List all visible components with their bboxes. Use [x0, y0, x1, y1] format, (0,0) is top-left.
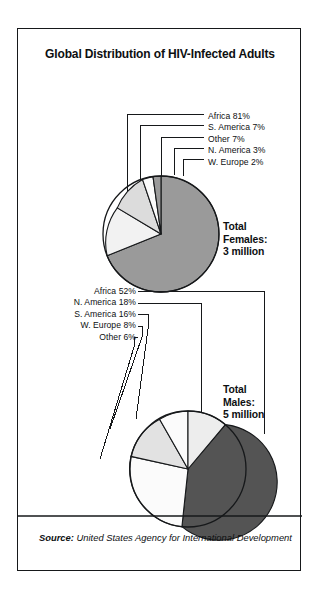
total-males-block: Total Males: 5 million — [223, 384, 264, 422]
total-males-line3: 5 million — [223, 409, 264, 422]
legend-item-s-america: S. America 7% — [208, 122, 265, 133]
total-females-block: Total Females: 3 million — [223, 221, 267, 259]
legend-item-other: Other 7% — [208, 134, 265, 145]
page-canvas: Global Distribution of HIV-Infected Adul… — [0, 0, 318, 590]
source-text: United States Agency for International D… — [74, 532, 292, 543]
legend-item-w-europe: W. Europe 2% — [208, 157, 265, 168]
total-males-line2: Males: — [223, 397, 264, 410]
legend-item-w-europe: W. Europe 8% — [26, 320, 136, 331]
legend-item-n-america: N. America 3% — [208, 145, 265, 156]
total-males-line1: Total — [223, 384, 264, 397]
pie-chart-males-slices — [130, 411, 278, 540]
source-label: Source: — [39, 532, 74, 543]
legend-item-africa: Africa 81% — [208, 111, 265, 122]
chart-frame-box: Global Distribution of HIV-Infected Adul… — [17, 28, 301, 571]
legend-item-africa: Africa 52% — [26, 286, 136, 297]
total-females-line2: Females: — [223, 234, 267, 247]
legend-item-s-america: S. America 16% — [26, 309, 136, 320]
legend-females: Africa 81% S. America 7% Other 7% N. Ame… — [208, 111, 265, 168]
total-females-line1: Total — [223, 221, 267, 234]
legend-males: Africa 52% N. America 18% S. America 16%… — [26, 286, 136, 343]
pie-chart-females-slices — [103, 176, 219, 292]
total-females-line3: 3 million — [223, 246, 267, 259]
legend-item-other: Other 6% — [26, 332, 136, 343]
legend-item-n-america: N. America 18% — [26, 297, 136, 308]
source-note: Source: United States Agency for Interna… — [39, 532, 292, 543]
